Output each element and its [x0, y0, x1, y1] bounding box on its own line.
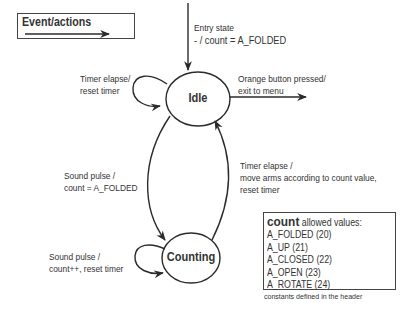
legend-box: Event/actions	[17, 13, 135, 39]
allowed-value-item: A_ROTATE (24)	[267, 279, 380, 292]
counting-self-loop-line2: count++, reset timer	[49, 263, 123, 275]
state-idle-label: Idle	[179, 90, 216, 105]
legend-title: Event/actions	[22, 15, 91, 29]
counting-to-idle-arrow	[212, 121, 229, 240]
allowed-values-box: count allowed values: A_FOLDED (20) A_UP…	[263, 212, 396, 290]
counting-to-idle-line1: Timer elapse /	[240, 160, 377, 172]
allowed-value-item: A_FOLDED (20)	[267, 229, 380, 242]
idle-to-counting-line1: Sound pulse /	[64, 170, 138, 182]
entry-label: Entry state - / count = A_FOLDED	[194, 22, 286, 46]
entry-label-line1: Entry state	[194, 22, 286, 34]
allowed-value-item: A_UP (21)	[267, 242, 380, 255]
idle-to-counting-label: Sound pulse / count = A_FOLDED	[64, 170, 138, 194]
state-counting-label: Counting	[165, 249, 218, 264]
idle-self-loop-arrow	[133, 76, 167, 106]
counting-self-loop-label: Sound pulse / count++, reset timer	[49, 251, 123, 275]
counting-self-loop-line1: Sound pulse /	[49, 251, 123, 263]
idle-self-loop-label: Timer elapse/ reset timer	[80, 73, 130, 97]
entry-label-line2: - / count = A_FOLDED	[194, 34, 286, 46]
idle-exit-line1: Orange button pressed/	[238, 73, 326, 85]
allowed-value-item: A_OPEN (23)	[267, 267, 380, 280]
allowed-values-title: count allowed values:	[267, 215, 380, 229]
counting-self-loop-arrow	[135, 245, 165, 273]
counting-to-idle-line2: move arms according to count value,	[240, 172, 377, 184]
counting-to-idle-label: Timer elapse / move arms according to co…	[240, 160, 377, 196]
idle-exit-label: Orange button pressed/ exit to menu	[238, 73, 326, 97]
idle-exit-line2: exit to menu	[238, 85, 326, 97]
idle-self-loop-line1: Timer elapse/	[80, 73, 130, 85]
allowed-value-item: A_CLOSED (22)	[267, 254, 380, 267]
allowed-values-keyword: count	[267, 214, 299, 229]
idle-self-loop-line2: reset timer	[80, 85, 130, 97]
counting-to-idle-line3: reset timer	[240, 184, 377, 196]
values-footnote: constants defined in the header	[264, 292, 362, 301]
idle-to-counting-line2: count = A_FOLDED	[64, 182, 138, 194]
idle-to-counting-arrow	[148, 116, 170, 240]
allowed-values-title-rest: allowed values:	[299, 217, 362, 228]
